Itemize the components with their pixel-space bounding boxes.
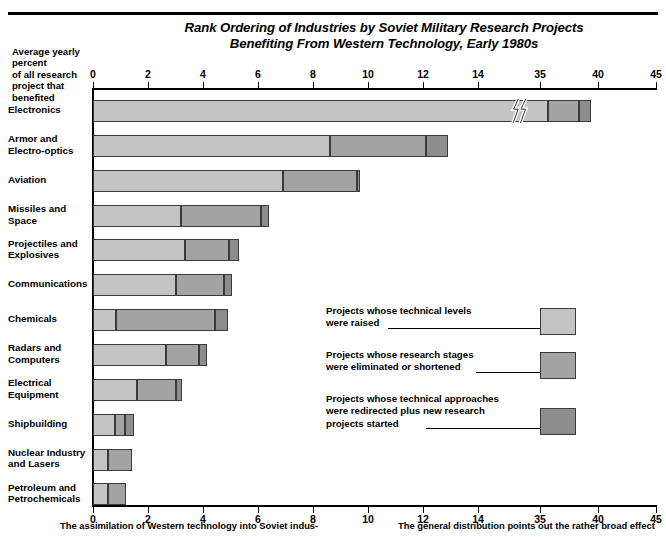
bar-aviation[interactable] [0,170,666,192]
bar-petroleum-and-petrochemicals[interactable] [0,483,666,505]
bar-electronics[interactable] [0,100,666,122]
bar-nuclear-industry-and-lasers[interactable] [0,449,666,471]
x-tick-40-top [598,82,599,88]
bar-segment-series-1[interactable] [93,379,137,401]
x-tick-0-top [93,82,94,88]
bar-segment-series-2[interactable] [185,239,229,261]
bar-segment-series-3[interactable] [125,414,135,436]
bar-segment-series-3[interactable] [215,309,227,331]
bar-segment-series-3[interactable] [261,205,269,227]
bar-segment-series-1[interactable] [93,170,283,192]
bar-segment-series-1[interactable] [93,205,181,227]
x-tick-45-top [656,82,657,88]
bar-segment-series-2[interactable] [116,309,215,331]
x-tick-14-top [478,82,479,88]
x-tick-label-14-top: 14 [458,68,498,80]
x-tick-label-45-top: 45 [636,68,666,80]
x-tick-label-6-top: 6 [238,68,278,80]
x-tick-label-12-top: 12 [403,68,443,80]
bar-segment-series-2[interactable] [283,170,357,192]
bar-segment-series-3[interactable] [176,379,183,401]
bar-segment-series-1[interactable] [93,344,166,366]
bar-segment-series-1[interactable] [93,414,115,436]
caption-left: The assimilation of Western technology i… [60,520,318,531]
bar-armor-and-electro-optics[interactable] [0,135,666,157]
x-tick-12-top [423,82,424,88]
bar-segment-series-2[interactable] [108,483,126,505]
x-tick-label-40-top: 40 [578,68,618,80]
legend-label-line: were redirected plus new research [326,405,556,417]
legend-leader-line [426,428,540,429]
bar-segment-series-2[interactable] [548,100,579,122]
legend-label-line: Projects whose research stages [326,349,556,361]
bar-segment-series-2[interactable] [176,274,224,296]
legend-item-label: Projects whose technical approacheswere … [326,393,556,430]
bar-segment-series-2[interactable] [137,379,176,401]
bar-communications[interactable] [0,274,666,296]
bar-segment-series-1[interactable] [93,100,548,122]
x-tick-label-35-top: 35 [520,68,560,80]
x-tick-label-4-top: 4 [183,68,223,80]
bar-segment-series-1[interactable] [93,135,330,157]
x-tick-label-8-top: 8 [293,68,333,80]
bar-segment-series-2[interactable] [166,344,199,366]
bar-segment-series-2[interactable] [181,205,261,227]
legend-item-2[interactable]: Projects whose research stageswere elimi… [326,349,626,374]
bar-segment-series-3[interactable] [199,344,207,366]
x-tick-6-top [258,82,259,88]
bar-segment-series-3[interactable] [229,239,239,261]
x-tick-label-2-top: 2 [128,68,168,80]
x-tick-label-0-top: 0 [73,68,113,80]
legend-swatch-stages-shortened[interactable] [540,352,576,379]
bar-projectiles-and-explosives[interactable] [0,239,666,261]
bar-missiles-and-space[interactable] [0,205,666,227]
bar-segment-series-1[interactable] [93,309,116,331]
bar-segment-series-3[interactable] [357,170,360,192]
legend-item-1[interactable]: Projects whose technical levelswere rais… [326,305,626,330]
x-tick-4-top [203,82,204,88]
legend-item-label: Projects whose technical levelswere rais… [326,305,556,330]
x-axis-line-top [92,88,657,90]
bar-segment-series-3[interactable] [426,135,448,157]
x-tick-35-top [540,82,541,88]
legend-label-line: Projects whose technical levels [326,305,556,317]
chart-plot-area: 0022446688101012121414353540404545 Elect… [0,0,666,537]
bar-segment-series-3[interactable] [224,274,232,296]
bar-segment-series-2[interactable] [115,414,125,436]
x-tick-2-top [148,82,149,88]
bar-segment-series-1[interactable] [93,239,185,261]
bar-segment-series-1[interactable] [93,483,108,505]
legend-swatch-approaches-redirected[interactable] [540,408,576,435]
bar-segment-series-2[interactable] [330,135,426,157]
x-tick-label-10-bot: 10 [348,513,388,525]
legend-label-line: Projects whose technical approaches [326,393,556,405]
bar-segment-series-2[interactable] [108,449,131,471]
legend-leader-line [388,328,540,329]
bar-segment-series-3[interactable] [579,100,591,122]
legend-swatch-levels-raised[interactable] [540,308,576,335]
x-tick-label-10-top: 10 [348,68,388,80]
legend-item-3[interactable]: Projects whose technical approacheswere … [326,393,626,430]
caption-right: The general distribution points out the … [398,520,655,531]
bar-segment-series-1[interactable] [93,449,108,471]
x-tick-10-top [368,82,369,88]
legend-leader-line [476,372,540,373]
bar-segment-series-1[interactable] [93,274,176,296]
legend-item-label: Projects whose research stageswere elimi… [326,349,556,374]
x-tick-8-top [313,82,314,88]
